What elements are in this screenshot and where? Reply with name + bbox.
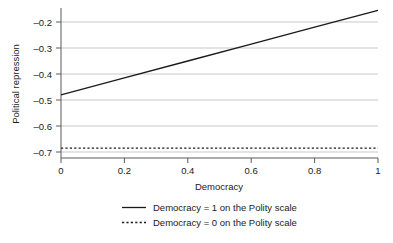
x-tick-label: 1 bbox=[375, 165, 380, 176]
y-tick-label: –0.2 bbox=[34, 17, 53, 28]
x-tick-label: 0.6 bbox=[245, 165, 258, 176]
y-tick-label: –0.4 bbox=[34, 69, 53, 80]
chart-svg: –0.2 –0.3 –0.4 –0.5 –0.6 –0.7 Political … bbox=[0, 0, 393, 243]
chart-figure: –0.2 –0.3 –0.4 –0.5 –0.6 –0.7 Political … bbox=[0, 0, 393, 243]
x-tick-label: 0.8 bbox=[308, 165, 321, 176]
y-axis-title: Political repression bbox=[10, 44, 21, 124]
y-tick-label: –0.3 bbox=[34, 43, 53, 54]
legend-label-democracy-0: Democracy = 0 on the Polity scale bbox=[153, 217, 297, 228]
y-tick-label: –0.5 bbox=[34, 95, 53, 106]
x-axis-title: Democracy bbox=[195, 181, 243, 192]
x-tick-label: 0 bbox=[58, 165, 63, 176]
y-tick-label: –0.6 bbox=[34, 121, 53, 132]
x-tick-label: 0.4 bbox=[181, 165, 194, 176]
y-tick-label: –0.7 bbox=[34, 147, 53, 158]
legend-label-democracy-1: Democracy = 1 on the Polity scale bbox=[153, 202, 297, 213]
x-tick-label: 0.2 bbox=[118, 165, 131, 176]
